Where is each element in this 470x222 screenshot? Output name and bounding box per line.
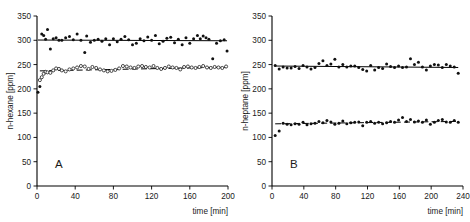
panel-label-b: B	[290, 158, 298, 170]
svg-text:80: 80	[109, 192, 119, 201]
panel-label-a: A	[55, 158, 63, 170]
svg-text:40: 40	[71, 192, 81, 201]
x-axis-title: time [min]	[193, 207, 229, 216]
svg-text:100: 100	[17, 133, 31, 142]
svg-text:250: 250	[252, 61, 266, 70]
svg-text:350: 350	[17, 12, 31, 21]
svg-text:300: 300	[17, 36, 31, 45]
svg-text:200: 200	[221, 192, 235, 201]
svg-text:40: 40	[299, 192, 309, 201]
svg-text:350: 350	[252, 12, 266, 21]
panel-a-axes	[37, 16, 228, 186]
svg-text:0: 0	[35, 192, 40, 201]
svg-text:120: 120	[361, 192, 375, 201]
svg-text:80: 80	[331, 192, 341, 201]
data-points	[274, 57, 460, 137]
svg-text:200: 200	[424, 192, 438, 201]
panel-a: 050100150200250300350 04080120160200 n-h…	[0, 0, 235, 222]
panel-b-axes	[272, 16, 463, 186]
svg-text:150: 150	[17, 109, 31, 118]
y-axis-title: n-heptane [ppm]	[241, 71, 250, 131]
svg-text:120: 120	[145, 192, 159, 201]
svg-text:50: 50	[257, 158, 267, 167]
y-axis-tick-labels: 050100150200250300350	[17, 12, 31, 191]
svg-text:160: 160	[392, 192, 406, 201]
svg-text:0: 0	[261, 182, 266, 191]
svg-text:160: 160	[183, 192, 197, 201]
svg-text:300: 300	[252, 36, 266, 45]
trend-lines	[275, 66, 458, 124]
svg-text:250: 250	[17, 61, 31, 70]
svg-text:150: 150	[252, 109, 266, 118]
svg-text:50: 50	[22, 158, 32, 167]
x-axis-tick-labels: 04080120160200	[35, 192, 235, 201]
figure-container: 050100150200250300350 04080120160200 n-h…	[0, 0, 470, 222]
y-axis-title: n-hexane [ppm]	[6, 73, 15, 130]
x-axis-title: time [min]	[428, 207, 464, 216]
data-points	[36, 28, 228, 94]
y-axis-tick-labels: 050100150200250300350	[252, 12, 266, 191]
svg-text:0: 0	[270, 192, 275, 201]
x-axis-tick-labels: 04080120160200240	[270, 192, 470, 201]
svg-text:0: 0	[26, 182, 31, 191]
svg-text:200: 200	[252, 85, 266, 94]
panel-a-plot: 050100150200250300350 04080120160200 n-h…	[0, 0, 235, 222]
svg-text:200: 200	[17, 85, 31, 94]
svg-text:100: 100	[252, 133, 266, 142]
panel-b-plot: 050100150200250300350 04080120160200240 …	[235, 0, 470, 222]
panel-b: 050100150200250300350 04080120160200240 …	[235, 0, 470, 222]
svg-text:240: 240	[456, 192, 470, 201]
